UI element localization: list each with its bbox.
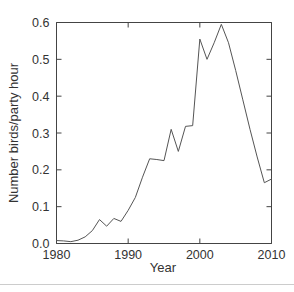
y-tick-label: 0.4 bbox=[32, 90, 49, 104]
y-tick-label: 0.6 bbox=[32, 16, 49, 30]
y-tick-label: 0.3 bbox=[32, 127, 49, 141]
x-axis-title: Year bbox=[150, 260, 177, 275]
y-tick-label: 0.2 bbox=[32, 163, 49, 177]
y-tick-label: 0.1 bbox=[32, 200, 49, 214]
chart-figure: 1980199020002010 0.00.10.20.30.40.50.6 Y… bbox=[0, 0, 294, 292]
x-tick-label: 1990 bbox=[114, 248, 142, 262]
y-tick-label: 0.0 bbox=[32, 237, 49, 251]
line-chart: 1980199020002010 0.00.10.20.30.40.50.6 Y… bbox=[0, 0, 294, 292]
y-tick-label: 0.5 bbox=[32, 53, 49, 67]
x-tick-label: 2010 bbox=[258, 248, 286, 262]
y-axis-title: Number birds/party hour bbox=[6, 62, 21, 203]
x-tick-label: 2000 bbox=[186, 248, 214, 262]
